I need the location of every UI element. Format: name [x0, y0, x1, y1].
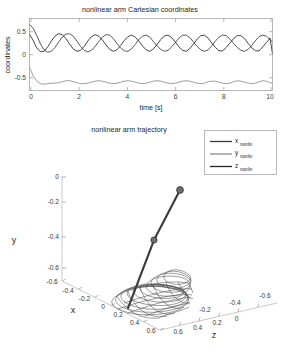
x3-tick-label: -0.6	[46, 278, 58, 285]
series-z-nonlin	[30, 34, 273, 54]
legend-label-z-base: z	[235, 162, 238, 169]
bottom-plot-title: nonlinear arm trajectory	[91, 125, 167, 134]
z3-tick-label: 0.2	[212, 319, 221, 326]
y-axis-ticks-3d: 0 -0.2 -0.4 -0.6 y	[12, 173, 66, 271]
x-tick-label: 4	[126, 93, 130, 100]
legend-label-x-sub: nonlin	[240, 142, 253, 147]
series-y-nonlin	[30, 67, 273, 84]
top-subplot: nonlinear arm Cartesian coordinates 0.5 …	[3, 5, 274, 112]
x-tick-label: 0	[29, 93, 33, 100]
top-plot-ylabel: coordinates	[3, 36, 12, 74]
y-tick-label: -0.5	[15, 74, 27, 81]
top-plot-axes-box	[30, 19, 273, 91]
x3-tick-label: 0.2	[113, 311, 122, 318]
trajectory-curve	[112, 270, 193, 319]
top-plot-x-ticks: 0 2 4 6 8 10	[29, 19, 274, 101]
arm-joint-marker	[151, 237, 157, 243]
x-tick-label: 8	[222, 93, 226, 100]
legend[interactable]: x nonlin y nonlin z nonlin	[205, 131, 277, 175]
top-plot-traces	[30, 24, 273, 84]
z3-tick-label: -0.4	[229, 299, 241, 306]
x3-tick-label: 0.4	[130, 319, 139, 326]
legend-label-y-sub: nonlin	[240, 154, 253, 159]
legend-label-z-sub: nonlin	[240, 167, 253, 172]
bottom-plot-zlabel: z	[212, 330, 217, 340]
x3-tick-label: 0.6	[146, 327, 155, 334]
bottom-plot-xlabel: x	[71, 305, 76, 315]
z3-tick-label: -0.2	[199, 306, 211, 313]
y3-tick-label: -0.4	[48, 233, 60, 240]
z3-tick-label: 0.6	[173, 328, 182, 335]
x3-tick-label: -0.2	[79, 295, 91, 302]
axis-lines-3d	[62, 176, 277, 330]
y-tick-label: 0	[22, 51, 26, 58]
z3-tick-label: 0	[235, 315, 239, 322]
z3-tick-label: 0.4	[193, 324, 202, 331]
y3-tick-label: -0.2	[48, 198, 60, 205]
x-tick-label: 2	[77, 93, 81, 100]
matlab-figure: nonlinear arm Cartesian coordinates 0.5 …	[0, 0, 281, 356]
y-tick-label: 0.5	[17, 28, 26, 35]
figure-canvas: nonlinear arm Cartesian coordinates 0.5 …	[0, 0, 281, 356]
x3-tick-label: 0	[101, 303, 105, 310]
arm-endpoint-marker	[177, 187, 184, 194]
top-plot-title: nonlinear arm Cartesian coordinates	[82, 5, 198, 14]
y3-tick-label: -0.6	[48, 264, 60, 271]
top-plot-xlabel: time [s]	[139, 103, 162, 112]
z3-tick-label: -0.6	[259, 292, 271, 299]
arm-link-2	[154, 190, 180, 240]
x3-tick-label: -0.4	[62, 287, 74, 294]
x-tick-label: 10	[266, 93, 274, 100]
x-tick-label: 6	[174, 93, 178, 100]
bottom-plot-ylabel: y	[12, 235, 17, 245]
y3-tick-label: 0	[55, 173, 59, 180]
